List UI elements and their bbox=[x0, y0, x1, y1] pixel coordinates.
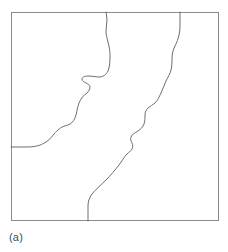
panel-border bbox=[12, 13, 219, 221]
figure-container: (a) bbox=[0, 0, 228, 252]
subfigure-caption: (a) bbox=[9, 230, 23, 244]
boundary-diagram bbox=[0, 0, 228, 252]
